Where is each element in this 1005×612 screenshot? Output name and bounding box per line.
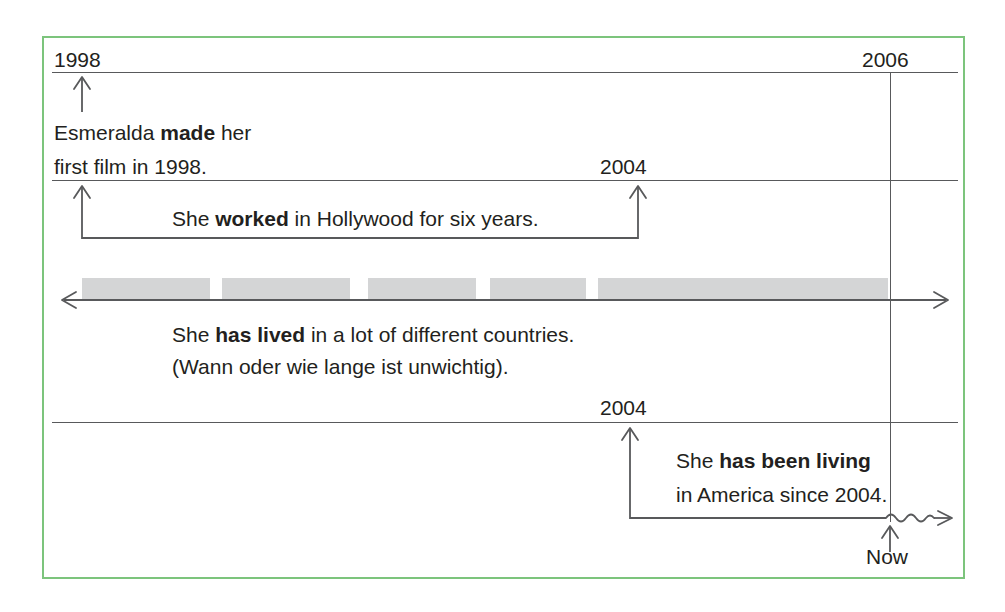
statement-has-lived-note: (Wann oder wie lange ist unwichtig). bbox=[172, 355, 509, 378]
timeline-period-bar bbox=[368, 278, 476, 300]
timeline-period-bar bbox=[490, 278, 586, 300]
year-label-2004-upper: 2004 bbox=[600, 155, 647, 179]
rule-second bbox=[52, 180, 958, 181]
rule-third bbox=[52, 422, 958, 423]
label-now: Now bbox=[866, 545, 908, 569]
statement-worked-pre: She bbox=[172, 207, 215, 230]
timeline-period-bar bbox=[598, 278, 888, 300]
timeline-diagram: 1998 2006 Esmeralda made her first film … bbox=[0, 0, 1005, 612]
year-label-2004-lower: 2004 bbox=[600, 396, 647, 420]
statement-has-lived-post: in a lot of different countries. bbox=[305, 323, 574, 346]
statement-made-line2: first film in 1998. bbox=[54, 155, 207, 178]
year-label-1998: 1998 bbox=[54, 48, 101, 72]
statement-hbl-line1-pre: She bbox=[676, 449, 719, 472]
rule-top bbox=[52, 72, 958, 73]
timeline-period-bar bbox=[222, 278, 350, 300]
statement-made-line1-post: her bbox=[215, 121, 251, 144]
year-label-2006: 2006 bbox=[862, 48, 909, 72]
statement-worked-post: in Hollywood for six years. bbox=[289, 207, 539, 230]
statement-has-lived-bold: has lived bbox=[215, 323, 305, 346]
statement-made-line1-pre: Esmeralda bbox=[54, 121, 160, 144]
statement-has-lived-pre: She bbox=[172, 323, 215, 346]
statement-hbl-line1-bold: has been living bbox=[719, 449, 871, 472]
timeline-period-bar bbox=[82, 278, 210, 300]
statement-worked-bold: worked bbox=[215, 207, 289, 230]
statement-made-line1-bold: made bbox=[160, 121, 215, 144]
now-guide-line bbox=[890, 72, 891, 522]
statement-hbl-line2: in America since 2004. bbox=[676, 483, 887, 506]
